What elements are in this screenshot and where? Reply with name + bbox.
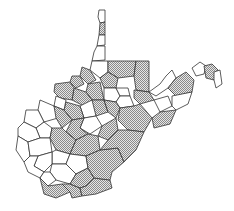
- county-pendleton: [152, 110, 176, 128]
- county-morgan: [192, 62, 206, 76]
- county-jefferson: [214, 70, 222, 88]
- west-virginia-county-map: [0, 0, 234, 211]
- county-preston: [134, 61, 149, 92]
- county-hancock: [98, 10, 105, 23]
- county-randolph: [118, 104, 152, 132]
- county-ohio: [97, 35, 105, 46]
- county-grant: [154, 96, 172, 112]
- county-marshall: [92, 46, 105, 61]
- county-brooke: [99, 22, 105, 35]
- map-caption: [0, 203, 234, 211]
